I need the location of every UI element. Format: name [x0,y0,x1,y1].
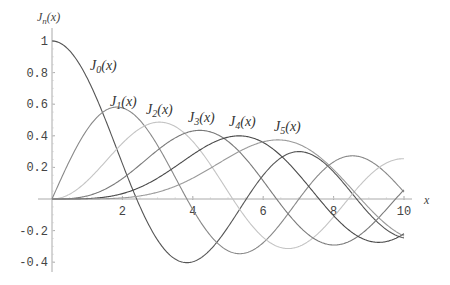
bessel-chart: 24681010.80.60.40.2-0.2-0.4 J0(x)J1(x)J2… [0,0,450,285]
x-tick-label: 6 [260,205,267,219]
curve-label-j1: J1(x) [110,94,137,111]
curves [52,41,404,263]
curve-label-j0: J0(x) [90,58,117,75]
y-tick-label: 0.8 [26,67,48,81]
y-tick-label: 0.6 [26,98,48,112]
curve-label-j4: J4(x) [229,114,256,131]
curve-labels: J0(x)J1(x)J2(x)J3(x)J4(x)J5(x) [90,58,301,136]
curve-j0 [52,41,404,263]
y-tick-label: -0.2 [19,225,48,239]
curve-j5 [52,140,404,236]
curve-label-j5: J5(x) [274,119,301,136]
axes: 24681010.80.60.40.2-0.2-0.4 [19,28,412,272]
x-tick-label: 10 [397,205,411,219]
y-tick-label: 1 [41,35,48,49]
y-tick-label: 0.2 [26,161,48,175]
x-tick-label: 2 [119,205,126,219]
y-tick-label: 0.4 [26,130,48,144]
x-tick-label: 4 [189,205,196,219]
curve-label-j3: J3(x) [188,110,215,127]
y-tick-label: -0.4 [19,256,48,270]
y-axis-label: Jn(x) [37,10,60,26]
x-axis-label: x [423,193,430,207]
curve-label-j2: J2(x) [146,102,173,119]
